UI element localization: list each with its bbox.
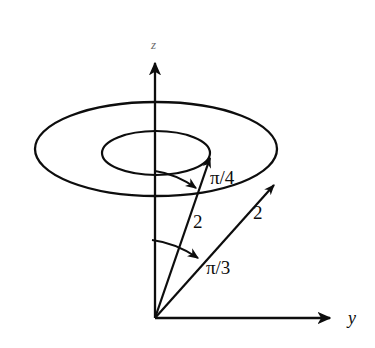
radius-label-outer: 2: [253, 203, 263, 222]
angle-arc-pi-over-3: [152, 240, 198, 258]
cone-diagram-svg: [0, 0, 375, 348]
figure-canvas: z y π/4 π/3 2 2: [0, 0, 375, 348]
ray-pi-over-4: [155, 158, 210, 318]
z-axis-label: z: [151, 38, 156, 51]
y-axis-label: y: [348, 309, 356, 327]
angle-label-pi-over-3: π/3: [206, 258, 230, 277]
angle-label-pi-over-4: π/4: [210, 168, 234, 187]
radius-label-inner: 2: [193, 212, 203, 231]
